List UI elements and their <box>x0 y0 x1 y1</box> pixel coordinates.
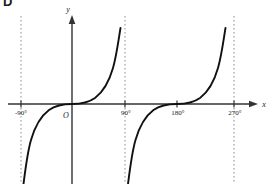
x-tick-label-minus-90: -90° <box>15 109 27 117</box>
x-axis-arrowhead <box>249 101 258 108</box>
x-tick-label-180: 180° <box>171 109 185 117</box>
x-axis-label: x <box>261 100 266 109</box>
tangent-function-figure: D y x O -90° 90° 180° 270° <box>0 0 273 184</box>
origin-label: O <box>63 111 69 120</box>
x-tick-label-90: 90° <box>121 109 131 117</box>
graph-canvas: y x O -90° 90° 180° 270° <box>0 0 273 184</box>
y-axis-arrowhead <box>69 15 76 24</box>
panel-letter: D <box>3 0 12 8</box>
y-axis-label: y <box>65 5 70 14</box>
x-tick-label-270: 270° <box>228 109 242 117</box>
